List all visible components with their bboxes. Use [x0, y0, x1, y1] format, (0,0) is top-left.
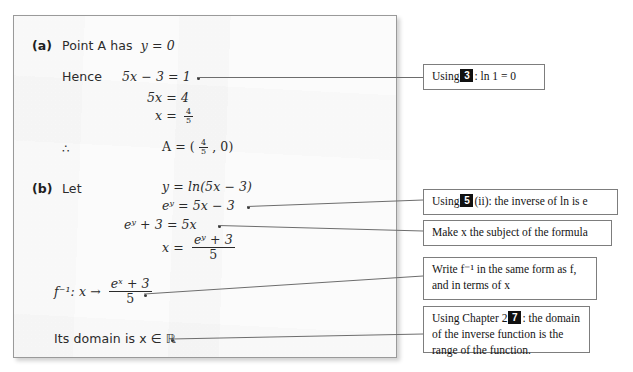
rule-badge-5: 5: [460, 194, 473, 207]
fraction-ex-plus-3-over-5: eˣ + 3 5: [109, 278, 152, 307]
hence-equation: 5x − 3 = 1: [122, 69, 191, 84]
fraction-four-fifths: 4 5: [184, 108, 193, 125]
equation-5x-equals-4: 5x = 4: [147, 90, 189, 105]
therefore-symbol: ∴: [62, 141, 70, 156]
line-hence-equation: 5x − 3 = 1: [122, 69, 191, 84]
line-5x-equals-4: 5x = 4: [147, 90, 189, 105]
fraction-denominator: 5: [199, 148, 208, 156]
point-a-text: Point A has: [62, 38, 133, 53]
line-y-equals-ln: y = ln(5x − 3): [162, 179, 252, 194]
let-label: Let: [62, 181, 82, 196]
callout-text: Using Chapter 27: the domain of the inve…: [432, 312, 580, 356]
part-label-a: (a): [32, 38, 52, 53]
callout-text: Write f⁻¹ in the same form as f, and in …: [432, 263, 576, 291]
fraction-four-fifths-coordinate: 4 5: [199, 139, 208, 156]
point-a-close: , 0): [212, 139, 233, 154]
leader-anchor-dot-1: [197, 77, 200, 80]
x-equals-label: x =: [162, 240, 184, 255]
callout-write-f-inverse: Write f⁻¹ in the same form as f, and in …: [423, 257, 597, 300]
point-a-equation: y = 0: [141, 38, 175, 53]
line-ey-equals-5x-minus-3: eʸ = 5x − 3: [162, 198, 235, 213]
line-domain: Its domain is x ∈ ℝ: [54, 331, 176, 346]
leader-anchor-dot-4: [144, 294, 147, 297]
leader-anchor-dot-5: [171, 339, 174, 342]
line-x-equals-fraction: x = eʸ + 3 5: [162, 234, 235, 263]
x-equals-label: x =: [155, 108, 177, 123]
leader-anchor-dot-3: [218, 225, 221, 228]
rule-badge-7: 7: [508, 311, 521, 324]
callout-prefix: Using: [432, 195, 459, 207]
rule-badge-3: 3: [460, 69, 473, 82]
line-ey-plus-3-equals-5x: eʸ + 3 = 5x: [124, 217, 197, 232]
f-inverse-label: f⁻¹: x →: [54, 284, 101, 299]
callout-suffix: : ln 1 = 0: [474, 70, 516, 82]
callout-text: Using5(ii): the inverse of ln is e: [432, 195, 588, 207]
callout-suffix: (ii): the inverse of ln is e: [474, 195, 587, 207]
fraction-denominator: 5: [184, 117, 193, 125]
let-text: Let: [62, 181, 82, 196]
therefore-glyph: ∴: [62, 141, 70, 156]
hence-label: Hence: [62, 69, 102, 84]
domain-statement: Its domain is x ∈ ℝ: [54, 331, 176, 346]
fraction-ey-plus-3-over-5: eʸ + 3 5: [192, 234, 235, 263]
callout-text: Using3: ln 1 = 0: [432, 70, 516, 82]
line-hence-label: Hence: [62, 69, 102, 84]
fraction-denominator: 5: [192, 248, 235, 262]
callout-text: Make x the subject of the formula: [432, 226, 588, 238]
line-point-a-statement: Point A has y = 0: [62, 38, 175, 53]
equation-ey-plus-3-equals-5x: eʸ + 3 = 5x: [124, 217, 197, 232]
worked-solution-page: (a) Point A has y = 0 Hence 5x − 3 = 1 5…: [13, 15, 397, 358]
point-a-open: A = (: [162, 139, 195, 154]
part-label-b: (b): [32, 181, 52, 196]
fraction-numerator: eˣ + 3: [109, 278, 152, 293]
callout-domain-is-range: Using Chapter 27: the domain of the inve…: [423, 306, 590, 353]
fraction-numerator: eʸ + 3: [192, 234, 235, 249]
equation-y-equals-ln: y = ln(5x − 3): [162, 179, 252, 194]
callout-prefix: Using: [432, 70, 459, 82]
callout-prefix: Using Chapter 2: [432, 312, 507, 324]
line-x-equals-four-fifths: x = 4 5: [155, 108, 193, 125]
callout-using-5-inverse-of-ln: Using5(ii): the inverse of ln is e: [423, 189, 618, 215]
line-point-a-coordinates: A = ( 4 5 , 0): [162, 139, 233, 156]
equation-ey-equals-5x-minus-3: eʸ = 5x − 3: [162, 198, 235, 213]
callout-make-x-subject: Make x the subject of the formula: [423, 220, 612, 246]
line-f-inverse-definition: f⁻¹: x → eˣ + 3 5: [54, 278, 152, 307]
leader-anchor-dot-2: [247, 206, 250, 209]
callout-using-3-ln1: Using3: ln 1 = 0: [423, 64, 545, 90]
